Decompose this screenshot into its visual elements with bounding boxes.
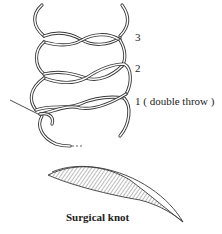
loop-upper [37, 40, 125, 74]
throw-2-twist [44, 64, 130, 94]
figure-caption: Surgical knot [66, 212, 129, 223]
throw-3-twist [44, 33, 120, 45]
thread-top-ends [35, 5, 128, 36]
throw-1-label: 1 ( double throw ) [135, 96, 214, 107]
surgical-knot-illustration [0, 0, 222, 234]
throw-3-label: 3 [135, 32, 141, 43]
loop-lower [31, 78, 44, 110]
thread-tail [40, 114, 82, 146]
throw-2-label: 2 [135, 63, 141, 74]
